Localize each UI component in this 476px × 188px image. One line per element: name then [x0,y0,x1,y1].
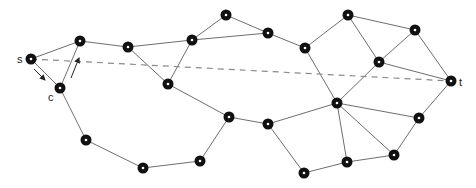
edge-n15-n21 [337,103,394,155]
edge-n17-n18 [379,30,415,62]
edge-n4-n8 [168,40,192,84]
edge-n11-n12 [86,140,143,168]
edge-n7-n15 [305,48,337,103]
edge-n16-n17 [348,15,379,62]
node-s [26,54,37,65]
node-n15 [332,98,343,109]
node-n21 [389,150,400,161]
node-n17 [374,57,385,68]
node-t [446,76,457,87]
edge-n15-n22 [337,103,347,162]
edge-c-n1 [60,41,80,88]
edge-n6-n7 [268,33,305,48]
edge-n10-n14 [268,124,304,173]
edge-s-c [31,59,60,88]
node-n3 [123,42,134,53]
edge-n15-n17 [337,62,379,103]
edge-s-n1 [31,41,80,59]
edge-n5-n6 [226,15,268,33]
edge-n13-n9 [200,117,229,161]
edge-n9-n10 [229,117,268,124]
node-n20 [414,113,425,124]
edge-n7-n16 [305,15,348,48]
edge-n3-n8 [128,47,168,84]
node-n18 [410,25,421,36]
node-n10 [263,119,274,130]
node-n6 [263,28,274,39]
node-n5 [221,10,232,21]
edge-n3-n4 [128,40,192,47]
edge-n22-n21 [347,155,394,162]
nodes-layer [26,10,457,179]
node-n7 [300,43,311,54]
edge-n12-n13 [143,161,200,168]
edge-n8-n9 [168,84,229,117]
edge-n4-n6 [192,33,268,40]
node-n11 [81,135,92,146]
edge-n14-n22 [304,162,347,173]
edge-c-n11 [60,88,86,140]
node-n22 [342,157,353,168]
node-n4 [187,35,198,46]
edge-n21-n20 [394,118,419,155]
edge-n16-n18 [348,15,415,30]
source-label: s [17,53,23,65]
edge-n15-n20 [337,103,419,118]
edge-n10-n15 [268,103,337,124]
edge-n20-t [419,81,451,118]
graph-canvas: s c t [0,0,476,188]
node-n8 [163,79,174,90]
node-c [55,83,66,94]
node-n14 [299,168,310,179]
s-t-dashed-line [31,59,451,81]
cursor-label: c [48,91,54,103]
edge-n4-n5 [192,15,226,40]
node-n12 [138,163,149,174]
edge-n1-n3 [80,41,128,47]
node-n16 [343,10,354,21]
edges-layer [31,15,451,173]
graph-diagram: s c t [0,0,476,188]
node-n13 [195,156,206,167]
target-label: t [459,76,462,88]
node-n9 [224,112,235,123]
node-n1 [75,36,86,47]
